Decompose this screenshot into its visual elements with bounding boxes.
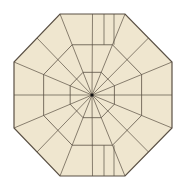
radial-line [92, 14, 93, 95]
radial-line [92, 95, 93, 176]
center-point [90, 93, 93, 96]
octagon-radial-diagram [0, 0, 184, 192]
